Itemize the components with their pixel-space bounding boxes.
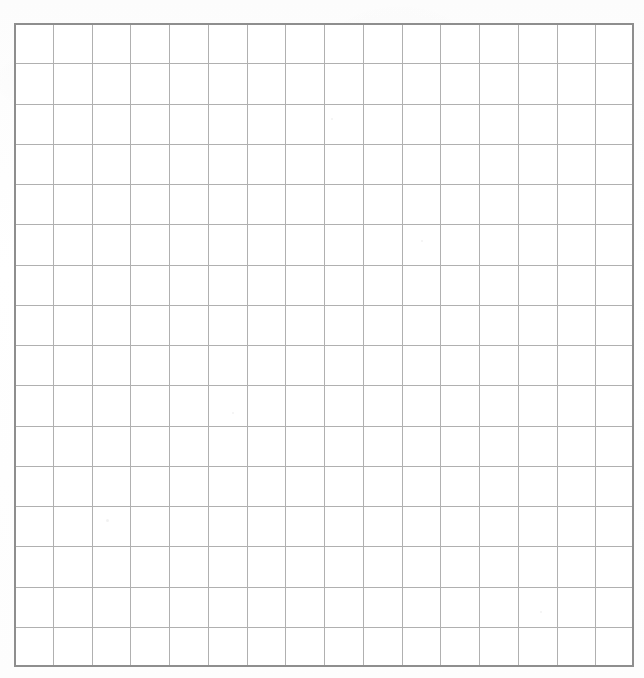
grid-lines	[14, 23, 634, 667]
page-canvas	[0, 0, 644, 678]
grid-container[interactable]	[14, 23, 634, 667]
